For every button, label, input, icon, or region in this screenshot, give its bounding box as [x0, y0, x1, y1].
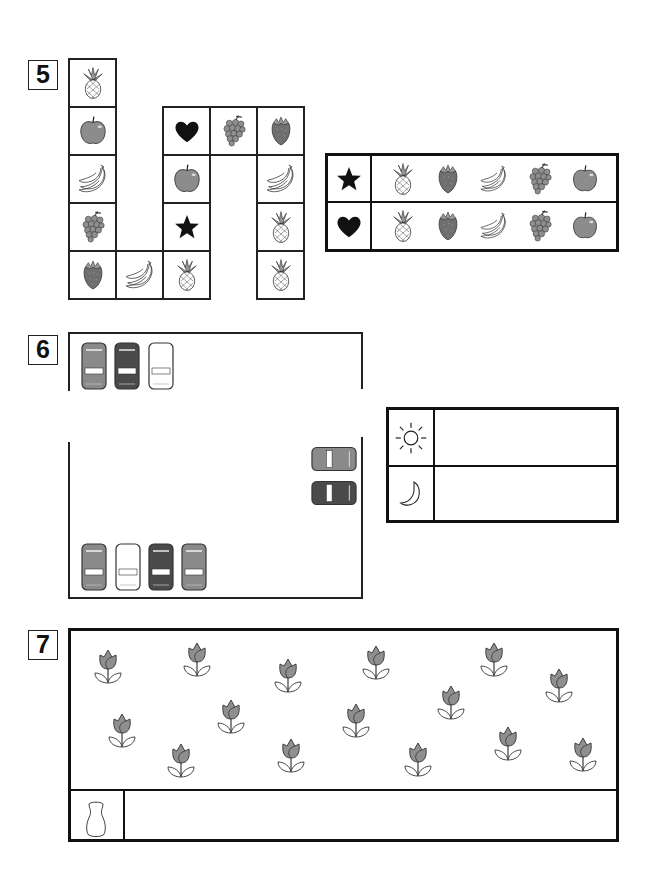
tulip-icon: [359, 643, 393, 683]
tulip-icon: [434, 683, 468, 723]
heart-icon: [173, 117, 201, 145]
car-dark-icon: [148, 543, 174, 591]
star-icon: [173, 213, 201, 241]
apple-icon: [569, 209, 601, 243]
sun-icon: [394, 421, 428, 455]
moon-icon: [396, 479, 426, 509]
vase-answer-field[interactable]: [127, 793, 614, 837]
car-gray-icon: [311, 446, 357, 472]
grapes-icon: [524, 162, 556, 196]
apple-icon: [569, 162, 601, 196]
banana-icon: [264, 162, 298, 196]
lot-wall-right-lower: [361, 437, 363, 599]
lot-wall-right-upper: [361, 332, 363, 389]
tulip-icon: [164, 741, 198, 781]
grid-cell[interactable]: [115, 250, 164, 300]
legend-row-heart: [328, 203, 616, 249]
grid-cell[interactable]: [68, 250, 117, 300]
lot-wall-top: [68, 332, 363, 334]
grapes-icon: [76, 210, 110, 244]
grid-cell[interactable]: [256, 106, 305, 156]
car-gray-icon: [181, 543, 207, 591]
banana-icon: [123, 258, 157, 292]
tulip-icon: [491, 724, 525, 764]
strawberry-icon: [264, 114, 298, 148]
grid-cell[interactable]: [256, 202, 305, 252]
star-icon: [335, 165, 363, 193]
tulip-icon: [271, 656, 305, 696]
legend-row-star: [328, 156, 616, 203]
answer-row-divider: [71, 789, 616, 791]
pineapple-icon: [264, 210, 298, 244]
grid-cell[interactable]: [256, 154, 305, 204]
day-key-cell: [389, 410, 435, 465]
tulip-icon: [274, 736, 308, 776]
section-number-label: 6: [28, 335, 58, 365]
tulip-icon: [214, 697, 248, 737]
section-number-label: 7: [28, 630, 58, 660]
tulip-icon: [91, 647, 125, 687]
tulip-icon: [477, 640, 511, 680]
grid-cell[interactable]: [162, 106, 211, 156]
answer-key-divider: [123, 789, 125, 839]
section-number-label: 5: [28, 60, 58, 90]
fruit-legend-table: [325, 153, 619, 252]
grid-cell[interactable]: [68, 154, 117, 204]
car-white-icon: [115, 543, 141, 591]
pineapple-icon: [76, 66, 110, 100]
grapes-icon: [217, 114, 251, 148]
vase-icon: [83, 799, 109, 839]
grid-cell[interactable]: [162, 250, 211, 300]
tulip-icon: [105, 711, 139, 751]
day-answer-field[interactable]: [435, 410, 616, 465]
legend-items: [372, 156, 616, 201]
car-gray-icon: [81, 543, 107, 591]
night-row: [389, 467, 616, 520]
car-white-icon: [148, 342, 174, 390]
car-dark-icon: [114, 342, 140, 390]
banana-icon: [76, 162, 110, 196]
apple-icon: [76, 114, 110, 148]
legend-items: [372, 203, 616, 249]
tulip-icon: [401, 740, 435, 780]
night-answer-field[interactable]: [435, 467, 616, 520]
car-dark-icon: [311, 480, 357, 506]
strawberry-icon: [432, 162, 464, 196]
tulip-icon: [542, 666, 576, 706]
heart-icon: [335, 212, 363, 240]
strawberry-icon: [76, 258, 110, 292]
pineapple-icon: [387, 209, 419, 243]
car-gray-icon: [81, 342, 107, 390]
night-key-cell: [389, 467, 435, 520]
grid-cell[interactable]: [256, 250, 305, 300]
legend-key-cell: [328, 156, 372, 201]
lot-wall-left-upper: [68, 332, 70, 391]
tulip-icon: [566, 735, 600, 775]
grid-cell[interactable]: [68, 58, 117, 108]
apple-icon: [170, 162, 204, 196]
tulip-icon: [180, 640, 214, 680]
pineapple-icon: [264, 258, 298, 292]
day-night-table: [386, 407, 619, 523]
lot-wall-left-lower: [68, 442, 70, 599]
grid-cell[interactable]: [209, 106, 258, 156]
grapes-icon: [524, 209, 556, 243]
grid-cell[interactable]: [162, 202, 211, 252]
pineapple-icon: [387, 162, 419, 196]
lot-wall-bottom: [68, 597, 363, 599]
tulip-icon: [339, 701, 373, 741]
strawberry-icon: [432, 209, 464, 243]
banana-icon: [478, 162, 510, 196]
banana-icon: [478, 209, 510, 243]
grid-cell[interactable]: [68, 202, 117, 252]
day-row: [389, 410, 616, 467]
pineapple-icon: [170, 258, 204, 292]
legend-key-cell: [328, 203, 372, 249]
grid-cell[interactable]: [162, 154, 211, 204]
grid-cell[interactable]: [68, 106, 117, 156]
